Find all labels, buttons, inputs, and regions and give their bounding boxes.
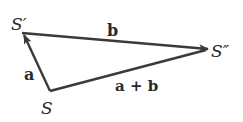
- point-label-s-double-prime: S″: [211, 41, 230, 61]
- vector-label-a: a: [24, 65, 34, 84]
- vector-triangle-diagram: S′ S″ S b a a + b: [0, 0, 243, 122]
- point-label-s-prime: S′: [11, 14, 27, 34]
- vector-label-b: b: [107, 21, 118, 40]
- point-label-s: S: [41, 98, 53, 118]
- vector-label-a-plus-b: a + b: [115, 77, 158, 95]
